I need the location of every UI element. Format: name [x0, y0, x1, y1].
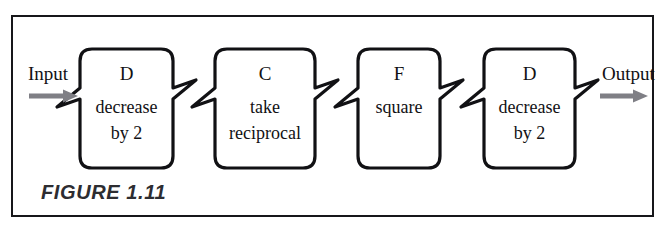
machine-4-code: D — [523, 63, 537, 84]
machine-1-code: D — [120, 63, 134, 84]
figure-container: D decrease by 2 C take reciprocal F squa… — [0, 0, 668, 234]
machine-4-line2: by 2 — [514, 123, 546, 143]
output-label: Output — [602, 63, 656, 84]
machine-3-line1: square — [376, 97, 423, 117]
machine-3[interactable]: F square — [335, 49, 463, 168]
machine-3-code: F — [394, 63, 405, 84]
input-label: Input — [28, 63, 69, 84]
machine-1[interactable]: D decrease by 2 — [57, 49, 196, 168]
machine-4-line1: decrease — [499, 97, 561, 117]
machine-4[interactable]: D decrease by 2 — [461, 49, 598, 168]
machine-2-line1: take — [250, 97, 280, 117]
machine-2-code: C — [259, 63, 272, 84]
output-arrow — [600, 90, 648, 103]
machine-2[interactable]: C take reciprocal — [192, 49, 338, 168]
figure-caption: FIGURE 1.11 — [41, 181, 166, 204]
machine-2-line2: reciprocal — [229, 123, 301, 143]
machine-1-line2: by 2 — [111, 123, 143, 143]
machine-1-line1: decrease — [96, 97, 158, 117]
